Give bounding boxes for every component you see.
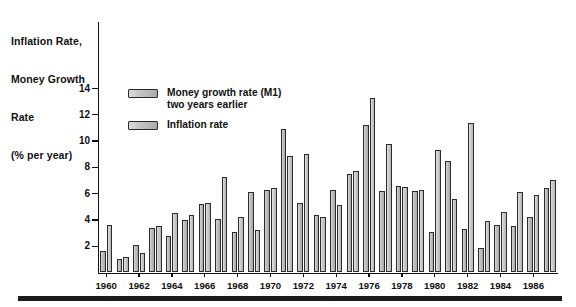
x-tick-label-1982: 1982 [457,280,478,291]
bar-money-growth-1985 [511,226,517,272]
bar-money-growth-1986 [527,217,533,272]
x-tick-label-1962: 1962 [128,280,149,291]
x-tick-1966 [204,273,205,277]
x-tick-1964 [171,273,172,277]
x-tick-1974 [336,273,337,277]
x-tick-label-1960: 1960 [96,280,117,291]
bar-inflation-1986 [534,195,540,273]
x-tick-1980 [434,273,435,277]
legend-item-money-growth: Money growth rate (M1) two years earlier [128,87,281,111]
bar-inflation-1987 [550,180,556,272]
bar-money-growth-1972 [297,203,303,273]
bar-money-growth-1975 [347,174,353,273]
legend-label-inflation: Inflation rate [167,119,228,131]
bottom-rule [18,296,562,301]
bar-money-growth-1974 [330,190,336,273]
y-tick-label-14: 14 [50,84,90,94]
bar-money-growth-1976 [363,125,369,272]
bar-money-growth-1973 [314,215,320,273]
legend-item-inflation: Inflation rate [128,119,281,131]
bar-inflation-1964 [172,213,178,272]
bar-money-growth-1965 [182,220,188,273]
x-tick-1968 [237,273,238,277]
bar-money-growth-1984 [494,225,500,272]
bar-inflation-1980 [435,150,441,272]
bar-money-growth-1981 [445,161,451,273]
bar-inflation-1982 [468,123,474,273]
bar-money-growth-1979 [412,191,418,272]
bar-inflation-1984 [501,212,507,272]
bar-inflation-1961 [123,257,129,273]
x-tick-1978 [401,273,402,277]
bar-inflation-1975 [353,171,359,272]
legend: Money growth rate (M1) two years earlier… [128,87,281,139]
bar-inflation-1970 [271,188,277,272]
bar-money-growth-1987 [544,188,550,272]
bar-inflation-1977 [386,144,392,273]
x-tick-label-1968: 1968 [227,280,248,291]
x-tick-label-1974: 1974 [326,280,347,291]
legend-label-money-growth-line1: Money growth rate (M1) [167,87,281,98]
bar-inflation-1962 [140,253,146,273]
x-tick-label-1964: 1964 [161,280,182,291]
x-tick-label-1966: 1966 [194,280,215,291]
bar-inflation-1978 [402,187,408,272]
y-tick-label-4: 4 [50,215,90,225]
y-tick-label-6: 6 [50,189,90,199]
bar-money-growth-1983 [478,248,484,273]
y-tick-label-10: 10 [50,136,90,146]
bar-money-growth-1969 [248,192,254,272]
y-axis-labels: 2468101214 [46,0,90,307]
legend-label-money-growth-line2: two years earlier [167,99,247,110]
legend-swatch-inflation [128,121,158,130]
x-tick-1962 [138,273,139,277]
bar-money-growth-1962 [133,245,139,273]
bar-inflation-1985 [517,192,523,272]
bar-inflation-1983 [485,221,491,272]
bar-money-growth-1960 [100,251,106,272]
bar-inflation-1976 [370,98,376,273]
bar-inflation-1967 [222,177,228,273]
bar-money-growth-1971 [281,129,287,272]
bar-inflation-1971 [287,156,293,273]
y-tick-label-2: 2 [50,241,90,251]
bar-inflation-1969 [255,230,261,272]
bar-inflation-1974 [337,205,343,272]
bar-inflation-1965 [189,215,195,273]
x-tick-1986 [533,273,534,277]
legend-label-money-growth: Money growth rate (M1) two years earlier [167,87,281,111]
bar-money-growth-1980 [429,232,435,273]
bar-money-growth-1977 [379,191,385,272]
x-tick-1970 [270,273,271,277]
bar-inflation-1973 [320,217,326,272]
bar-inflation-1979 [419,190,425,273]
bar-inflation-1963 [156,226,162,272]
bar-money-growth-1968 [232,232,238,273]
x-tick-1960 [106,273,107,277]
y-tick-label-12: 12 [50,110,90,120]
bar-inflation-1972 [304,154,310,272]
bar-money-growth-1982 [462,229,468,272]
bar-inflation-1981 [452,199,458,273]
x-tick-label-1986: 1986 [523,280,544,291]
x-tick-label-1980: 1980 [424,280,445,291]
bar-money-growth-1964 [166,236,172,273]
x-tick-1972 [303,273,304,277]
y-tick-label-8: 8 [50,162,90,172]
x-tick-1984 [500,273,501,277]
bar-money-growth-1967 [215,219,221,273]
x-tick-1982 [467,273,468,277]
x-axis-line [98,273,558,274]
bar-inflation-1966 [205,203,211,273]
chart-root: Inflation Rate, Money Growth Rate (% per… [0,0,576,307]
bar-money-growth-1970 [264,190,270,273]
bar-money-growth-1966 [199,204,205,272]
bar-money-growth-1978 [396,186,402,273]
x-tick-label-1970: 1970 [260,280,281,291]
bar-inflation-1968 [238,217,244,272]
x-tick-label-1976: 1976 [358,280,379,291]
x-tick-label-1978: 1978 [391,280,412,291]
bar-money-growth-1961 [117,259,123,272]
legend-swatch-money-growth [128,89,158,98]
bar-inflation-1960 [107,225,113,272]
